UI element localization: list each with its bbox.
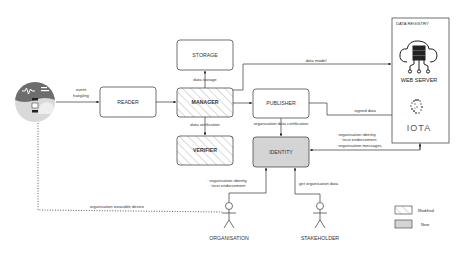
registry-identity-label-2: · trust endorsement bbox=[340, 137, 377, 142]
storage-label: STORAGE bbox=[192, 52, 218, 58]
edge-label-handling: hangling bbox=[73, 93, 90, 98]
edge-label-org-wearable-device: organisation wearable device bbox=[90, 204, 145, 209]
verifier-node[interactable]: VERIFIER bbox=[177, 136, 233, 165]
stakeholder-label: STAKEHOLDER bbox=[301, 235, 339, 241]
data-registry-node[interactable]: DATA REGISTRY WEB SERVER IOTA bbox=[392, 18, 449, 143]
data-registry-label: DATA REGISTRY bbox=[396, 21, 429, 26]
architecture-diagram: event hangling READER STORAGE MANAGER da… bbox=[0, 0, 466, 255]
org-identity-label-2: · trust endorsement bbox=[209, 183, 246, 188]
edge-label-data-storage: data storage bbox=[193, 77, 217, 82]
verifier-label: VERIFIER bbox=[193, 147, 217, 153]
organisation-actor[interactable] bbox=[222, 203, 236, 229]
edge-label-event: event bbox=[76, 87, 87, 92]
manager-node[interactable]: MANAGER bbox=[177, 88, 233, 117]
edge-label-data-model: data model bbox=[306, 58, 327, 63]
legend: Modified New bbox=[395, 206, 434, 228]
wearable-device-icon[interactable] bbox=[15, 82, 55, 122]
edge-label-data-verification: data verification bbox=[190, 122, 220, 127]
registry-identity-label-3: · organisation messages bbox=[336, 143, 382, 148]
legend-modified-label: Modified bbox=[418, 208, 434, 213]
identity-label: IDENTITY bbox=[269, 149, 293, 155]
edge-label-get-org-data: get organisation data bbox=[299, 181, 339, 186]
edge-label-signed-data: signed data bbox=[354, 108, 376, 113]
identity-node[interactable]: IDENTITY bbox=[253, 137, 309, 167]
stakeholder-actor[interactable] bbox=[313, 203, 327, 229]
organisation-label: ORGANISATION bbox=[209, 235, 249, 241]
edge-data-model bbox=[233, 64, 391, 90]
reader-node[interactable]: READER bbox=[100, 87, 156, 117]
manager-label: MANAGER bbox=[192, 99, 219, 105]
edge-label-org-data-certification: organisation data certification bbox=[254, 121, 309, 126]
storage-node[interactable]: STORAGE bbox=[177, 40, 233, 70]
legend-new-label: New bbox=[421, 222, 430, 227]
iota-label: IOTA bbox=[407, 123, 431, 133]
legend-new-swatch bbox=[395, 220, 412, 228]
web-server-label: WEB SERVER bbox=[401, 77, 438, 83]
publisher-node[interactable]: PUBLISHER bbox=[253, 89, 309, 118]
publisher-label: PUBLISHER bbox=[266, 100, 296, 106]
reader-label: READER bbox=[117, 99, 139, 105]
legend-modified-swatch bbox=[395, 206, 412, 214]
